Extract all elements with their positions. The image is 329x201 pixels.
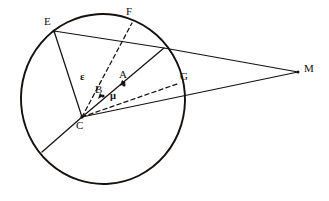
segment-E-M xyxy=(54,31,298,72)
point-label-A: A xyxy=(119,69,127,80)
geometry-diagram: E F G C M A B ε μ xyxy=(0,0,329,201)
point-label-C: C xyxy=(76,120,83,131)
angle-label-mu: μ xyxy=(110,91,116,102)
segment-E-C xyxy=(54,31,82,117)
point-label-G: G xyxy=(180,71,188,82)
point-label-M: M xyxy=(304,63,314,74)
point-label-F: F xyxy=(126,6,132,17)
point-label-E: E xyxy=(44,16,51,27)
vertex-dot-A xyxy=(122,83,125,86)
vertex-dot-M xyxy=(297,71,300,74)
vertex-dot-E xyxy=(53,30,56,33)
point-label-B: B xyxy=(95,84,102,95)
angle-label-epsilon: ε xyxy=(80,72,85,83)
diagram-canvas xyxy=(0,0,329,201)
